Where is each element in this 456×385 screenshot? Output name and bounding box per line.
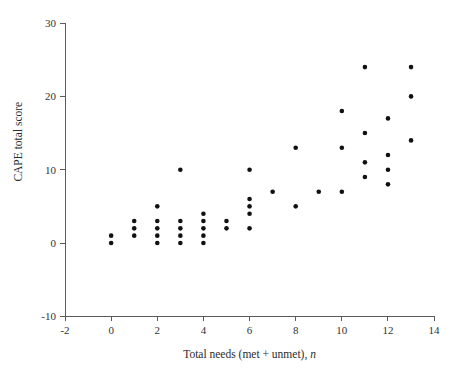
data-point xyxy=(270,189,275,194)
x-tick-label: 14 xyxy=(429,324,441,336)
data-point xyxy=(247,197,252,202)
data-point xyxy=(386,167,391,172)
y-tick-label: -10 xyxy=(41,310,56,322)
x-axis-ticks: -202468101214 xyxy=(60,316,440,336)
y-tick-label: 20 xyxy=(45,90,57,102)
data-point xyxy=(155,226,160,231)
x-tick-label: -2 xyxy=(60,324,69,336)
data-point xyxy=(363,160,368,165)
data-point xyxy=(178,167,183,172)
data-point xyxy=(363,175,368,180)
data-point xyxy=(155,233,160,238)
scatter-plot-figure: -100102030-202468101214Total needs (met … xyxy=(0,0,456,385)
x-tick-label: 0 xyxy=(108,324,114,336)
y-tick-label: 30 xyxy=(45,17,57,29)
data-point xyxy=(132,226,137,231)
data-point xyxy=(178,219,183,224)
data-point xyxy=(293,145,298,150)
data-points-group xyxy=(109,65,414,246)
y-tick-label: 0 xyxy=(51,237,57,249)
data-point xyxy=(132,219,137,224)
data-point xyxy=(247,204,252,209)
x-tick-label: 2 xyxy=(155,324,161,336)
data-point xyxy=(201,226,206,231)
data-point xyxy=(201,219,206,224)
data-point xyxy=(201,241,206,246)
x-tick-label: 6 xyxy=(247,324,253,336)
data-point xyxy=(178,241,183,246)
data-point xyxy=(316,189,321,194)
x-tick-label: 8 xyxy=(293,324,299,336)
y-tick-label: 10 xyxy=(45,164,57,176)
y-axis-ticks: -100102030 xyxy=(41,17,65,322)
y-axis-title: CAPE total score xyxy=(12,102,24,182)
data-point xyxy=(201,211,206,216)
data-point xyxy=(340,109,345,114)
data-point xyxy=(340,145,345,150)
data-point xyxy=(178,233,183,238)
data-point xyxy=(155,219,160,224)
data-point xyxy=(363,131,368,136)
data-point xyxy=(247,211,252,216)
data-point xyxy=(109,233,114,238)
x-tick-label: 10 xyxy=(336,324,348,336)
data-point xyxy=(109,241,114,246)
plot-canvas: -100102030-202468101214Total needs (met … xyxy=(0,0,456,385)
data-point xyxy=(363,65,368,70)
x-axis-title: Total needs (met + unmet), n xyxy=(183,348,316,361)
data-point xyxy=(224,219,229,224)
data-point xyxy=(293,204,298,209)
data-point xyxy=(247,167,252,172)
data-point xyxy=(178,226,183,231)
data-point xyxy=(155,204,160,209)
data-point xyxy=(386,182,391,187)
data-point xyxy=(224,226,229,231)
x-tick-label: 12 xyxy=(382,324,393,336)
data-point xyxy=(132,233,137,238)
x-tick-label: 4 xyxy=(201,324,207,336)
data-point xyxy=(155,241,160,246)
data-point xyxy=(386,153,391,158)
data-point xyxy=(409,65,414,70)
data-point xyxy=(386,116,391,121)
data-point xyxy=(409,94,414,99)
data-point xyxy=(247,226,252,231)
data-point xyxy=(201,233,206,238)
data-point xyxy=(409,138,414,143)
data-point xyxy=(340,189,345,194)
